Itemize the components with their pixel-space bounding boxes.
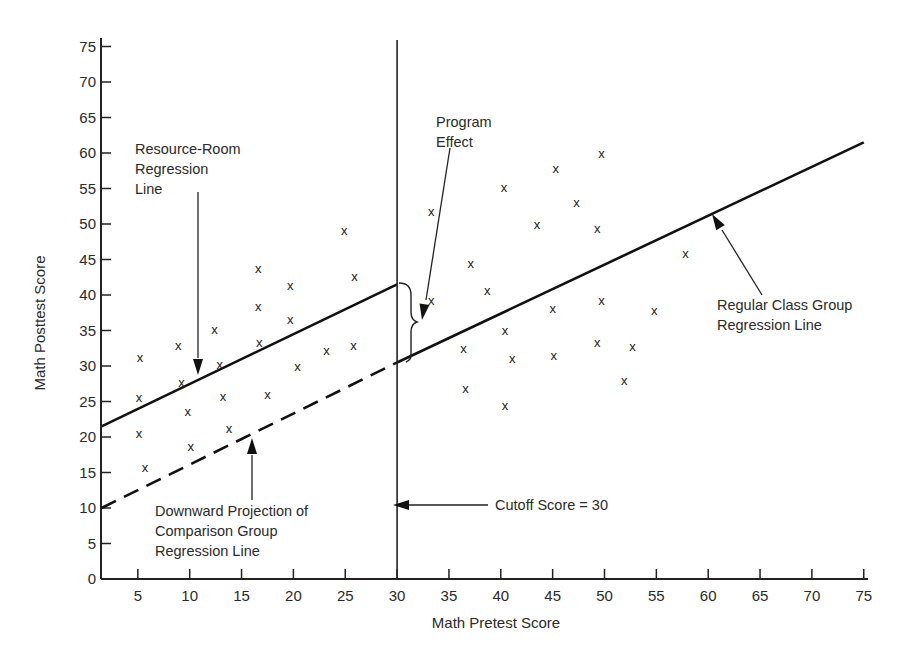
regression-discontinuity-chart: 0510152025303540455055606570755101520253…	[0, 0, 903, 658]
y-tick-label: 60	[79, 144, 96, 161]
x-marker: x	[351, 269, 358, 284]
y-tick-label: 75	[79, 38, 96, 55]
y-tick-label: 50	[79, 215, 96, 232]
x-marker: x	[682, 246, 689, 261]
regular-class-arrowhead	[712, 214, 725, 230]
downward-projection-label: Downward Projection ofComparison GroupRe…	[155, 503, 309, 559]
x-marker: x	[598, 293, 605, 308]
x-marker: x	[217, 357, 224, 372]
x-marker: x	[323, 343, 330, 358]
x-marker: x	[550, 348, 557, 363]
y-tick-label: 40	[79, 286, 96, 303]
x-marker: x	[509, 351, 516, 366]
x-axis-title: Math Pretest Score	[432, 614, 560, 631]
y-tick-label: 35	[79, 322, 96, 339]
y-tick-label: 15	[79, 464, 96, 481]
x-marker: x	[428, 293, 435, 308]
resource-room-arrowhead	[193, 359, 203, 375]
resource-room-label: Resource-RoomRegressionLine	[135, 141, 241, 197]
program-effect-label: ProgramEffect	[436, 114, 492, 150]
resource-room-regression-line	[102, 284, 398, 426]
x-tick-label: 40	[492, 587, 509, 604]
x-marker: x	[428, 204, 435, 219]
x-marker: x	[287, 278, 294, 293]
y-tick-label: 45	[79, 251, 96, 268]
program-effect-arrowhead	[420, 303, 430, 320]
x-marker: x	[184, 404, 191, 419]
y-tick-label: 65	[79, 109, 96, 126]
program-effect-brace	[399, 283, 417, 362]
x-marker: x	[594, 221, 601, 236]
data-points: xxxxxxxxxxxxxxxxxxxxxxxxxxxxxxxxxxxxxxxx…	[136, 146, 689, 475]
x-tick-label: 75	[855, 587, 872, 604]
x-marker: x	[220, 389, 227, 404]
x-tick-label: 30	[389, 587, 406, 604]
cutoff-score-label: Cutoff Score = 30	[495, 497, 608, 513]
x-tick-label: 55	[648, 587, 665, 604]
x-marker: x	[137, 350, 144, 365]
y-tick-label: 5	[88, 535, 96, 552]
x-marker: x	[501, 180, 508, 195]
x-marker: x	[534, 217, 541, 232]
x-marker: x	[621, 373, 628, 388]
x-tick-label: 70	[804, 587, 821, 604]
y-tick-label: 10	[79, 499, 96, 516]
x-tick-label: 10	[181, 587, 198, 604]
x-marker: x	[594, 335, 601, 350]
x-marker: x	[264, 387, 271, 402]
x-marker: x	[341, 223, 348, 238]
x-tick-label: 60	[700, 587, 717, 604]
x-marker: x	[256, 335, 263, 350]
x-marker: x	[502, 323, 509, 338]
x-marker: x	[255, 261, 262, 276]
x-marker: x	[553, 161, 560, 176]
downward-projection-arrowhead	[247, 438, 257, 454]
x-marker: x	[484, 283, 491, 298]
x-marker: x	[136, 426, 143, 441]
x-marker: x	[294, 359, 301, 374]
x-marker: x	[211, 322, 218, 337]
x-marker: x	[350, 338, 357, 353]
x-marker: x	[175, 338, 182, 353]
x-marker: x	[287, 312, 294, 327]
x-marker: x	[460, 341, 467, 356]
x-marker: x	[178, 375, 185, 390]
x-marker: x	[462, 381, 469, 396]
annotations: Resource-RoomRegressionLineProgramEffect…	[135, 114, 852, 559]
y-tick-label: 20	[79, 428, 96, 445]
x-marker: x	[598, 146, 605, 161]
x-tick-label: 20	[285, 587, 302, 604]
x-marker: x	[549, 301, 556, 316]
x-marker: x	[629, 339, 636, 354]
x-tick-label: 45	[544, 587, 561, 604]
x-tick-label: 35	[441, 587, 458, 604]
x-marker: x	[467, 256, 474, 271]
x-tick-label: 50	[596, 587, 613, 604]
x-tick-label: 65	[752, 587, 769, 604]
x-tick-label: 15	[233, 587, 250, 604]
y-axis-title: Math Posttest Score	[31, 255, 48, 390]
y-tick-label: 30	[79, 357, 96, 374]
x-marker: x	[255, 299, 262, 314]
y-tick-label: 0	[88, 570, 96, 587]
x-marker: x	[142, 460, 149, 475]
y-tick-label: 55	[79, 180, 96, 197]
x-tick-label: 25	[337, 587, 354, 604]
y-tick-label: 70	[79, 73, 96, 90]
x-marker: x	[136, 390, 143, 405]
y-tick-label: 25	[79, 393, 96, 410]
cutoff-arrowhead	[393, 500, 409, 510]
regular-class-pointer	[722, 230, 762, 295]
program-effect-pointer	[426, 148, 450, 300]
x-marker: x	[573, 195, 580, 210]
x-tick-label: 5	[134, 587, 142, 604]
downward-projection-of-comparison-group-regression-line	[102, 362, 398, 508]
x-marker: x	[187, 439, 194, 454]
x-marker: x	[226, 421, 233, 436]
regular-class-label: Regular Class GroupRegression Line	[717, 297, 852, 333]
x-marker: x	[502, 398, 509, 413]
x-marker: x	[651, 303, 658, 318]
